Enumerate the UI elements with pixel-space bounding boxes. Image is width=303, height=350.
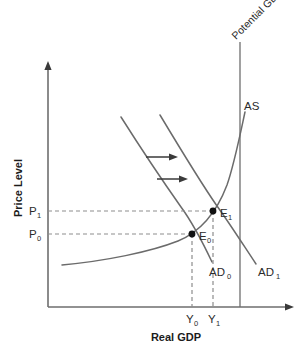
ad0-label-subscript: 0 bbox=[227, 272, 231, 281]
p1-label-base: P bbox=[29, 205, 37, 217]
as-curve-label: AS bbox=[244, 100, 260, 112]
equilibrium-label-e0: E 0 bbox=[199, 230, 211, 245]
x-tick-label-y0: Y 0 bbox=[186, 313, 198, 328]
y-axis-arrow-icon bbox=[44, 61, 51, 70]
equilibrium-dot-e1 bbox=[210, 208, 217, 215]
y0-label-base: Y bbox=[186, 313, 194, 325]
e0-label-subscript: 0 bbox=[207, 236, 211, 245]
y-tick-label-p0: P 0 bbox=[29, 228, 41, 243]
axes-group bbox=[44, 61, 294, 311]
y-axis-title: Price Level bbox=[12, 159, 24, 217]
p0-label-base: P bbox=[29, 228, 37, 240]
e1-label-subscript: 1 bbox=[228, 213, 232, 222]
economics-diagram: Potential GDP AS AD 0 AD 1 E 0 E 1 P 1 bbox=[0, 0, 303, 350]
p1-label-subscript: 1 bbox=[37, 211, 41, 220]
shift-arrow-upper-head-icon bbox=[169, 154, 178, 161]
x-axis-arrow-icon bbox=[285, 304, 294, 311]
ad0-label-base: AD bbox=[209, 266, 225, 278]
e0-label-base: E bbox=[199, 230, 207, 242]
ad1-label-subscript: 1 bbox=[276, 272, 280, 281]
y0-label-subscript: 0 bbox=[194, 319, 198, 328]
y1-label-subscript: 1 bbox=[216, 319, 220, 328]
shift-arrows-group bbox=[146, 154, 188, 183]
ad1-label-base: AD bbox=[258, 266, 274, 278]
x-axis-title: Real GDP bbox=[151, 331, 201, 343]
as-curve bbox=[62, 112, 245, 265]
shift-arrow-lower-head-icon bbox=[179, 176, 188, 183]
ad1-curve-label: AD 1 bbox=[258, 266, 280, 281]
guide-lines-group bbox=[48, 211, 213, 307]
p0-label-subscript: 0 bbox=[37, 234, 41, 243]
x-tick-label-y1: Y 1 bbox=[208, 313, 220, 328]
e1-label-base: E bbox=[220, 207, 228, 219]
y1-label-base: Y bbox=[208, 313, 216, 325]
ad0-curve-label: AD 0 bbox=[209, 266, 231, 281]
y-tick-label-p1: P 1 bbox=[29, 205, 41, 220]
potential-gdp-label: Potential GDP bbox=[229, 0, 285, 41]
equilibrium-dot-e0 bbox=[189, 231, 196, 238]
as-curve-group bbox=[62, 112, 245, 265]
